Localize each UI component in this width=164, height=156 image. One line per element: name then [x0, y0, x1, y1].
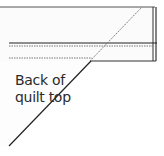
back-of-quilt-top-label: Back of quilt top — [15, 72, 71, 106]
binding-strip — [0, 7, 154, 61]
label-line-1: Back of — [15, 72, 71, 89]
label-line-2: quilt top — [15, 89, 71, 106]
